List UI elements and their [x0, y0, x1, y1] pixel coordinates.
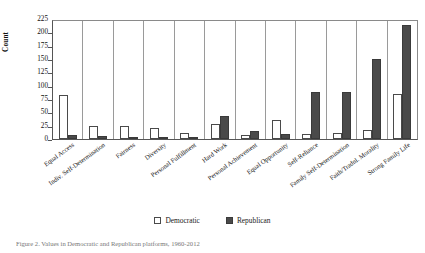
y-tick-label: 150 — [22, 56, 48, 63]
bar-democratic[interactable] — [211, 124, 220, 139]
bar-republican[interactable] — [159, 137, 168, 139]
chart-legend: Democratic Republican — [0, 216, 425, 225]
bar-group — [144, 21, 174, 139]
x-axis-label: Diversity — [143, 141, 167, 161]
bar-democratic[interactable] — [120, 126, 129, 139]
y-axis-title: Count — [2, 0, 10, 52]
y-tick-label: 100 — [22, 83, 48, 90]
legend-item-democratic[interactable]: Democratic — [154, 216, 199, 225]
bar-democratic[interactable] — [393, 94, 402, 139]
bar-groups — [53, 21, 417, 139]
bar-republican[interactable] — [281, 134, 290, 139]
y-tick-label: 125 — [22, 70, 48, 77]
bar-democratic[interactable] — [150, 128, 159, 139]
bar-democratic[interactable] — [59, 95, 68, 139]
y-tick-label: 25 — [22, 123, 48, 130]
bar-democratic[interactable] — [302, 134, 311, 139]
x-axis-labels: Equal AccessIndiv. Self-DeterminationFai… — [52, 141, 418, 201]
legend-swatch-republican-icon — [226, 217, 233, 224]
plot-area — [52, 20, 418, 140]
x-axis-label: Family Self-Determination — [288, 141, 350, 189]
chart-plot-wrapper: Count 225 200 175 150 125 100 75 50 25 0… — [0, 0, 425, 200]
bar-group — [236, 21, 266, 139]
bar-republican[interactable] — [129, 137, 138, 139]
bar-republican[interactable] — [250, 131, 259, 139]
figure-caption: Figure 2. Values in Democratic and Repub… — [16, 240, 416, 248]
bar-group — [327, 21, 357, 139]
bar-group — [296, 21, 326, 139]
bar-republican[interactable] — [189, 137, 198, 139]
y-axis-ticks: 225 200 175 150 125 100 75 50 25 0 — [18, 0, 48, 200]
bar-republican[interactable] — [342, 92, 351, 139]
bar-republican[interactable] — [68, 135, 77, 139]
bar-group — [175, 21, 205, 139]
x-axis-label: Fairness — [114, 141, 136, 160]
bar-group — [205, 21, 235, 139]
y-tick-label: 175 — [22, 43, 48, 50]
x-axis-label: Hard Work — [200, 141, 228, 164]
bar-group — [388, 21, 417, 139]
bar-republican[interactable] — [402, 25, 411, 139]
bar-group — [357, 21, 387, 139]
legend-item-republican[interactable]: Republican — [226, 216, 271, 225]
bar-republican[interactable] — [311, 92, 320, 139]
x-axis-label: Indiv. Self-Determination — [47, 141, 106, 186]
y-tick-label: 75 — [22, 96, 48, 103]
legend-label-republican: Republican — [237, 216, 271, 225]
legend-label-democratic: Democratic — [165, 216, 199, 225]
bar-democratic[interactable] — [272, 120, 281, 139]
bar-group — [114, 21, 144, 139]
bar-republican[interactable] — [220, 116, 229, 139]
bar-democratic[interactable] — [333, 133, 342, 139]
y-tick-label: 0 — [22, 136, 48, 143]
bar-group — [53, 21, 83, 139]
legend-swatch-democratic-icon — [154, 217, 161, 224]
bar-republican[interactable] — [98, 136, 107, 139]
bar-group — [266, 21, 296, 139]
bar-democratic[interactable] — [363, 130, 372, 139]
bar-democratic[interactable] — [180, 133, 189, 139]
bar-democratic[interactable] — [89, 126, 98, 139]
bar-republican[interactable] — [372, 59, 381, 139]
bar-group — [83, 21, 113, 139]
figure-container: Count 225 200 175 150 125 100 75 50 25 0… — [0, 0, 425, 253]
y-tick-label: 225 — [22, 16, 48, 23]
y-tick-label: 50 — [22, 110, 48, 117]
y-tick-label: 200 — [22, 30, 48, 37]
bar-democratic[interactable] — [241, 135, 250, 139]
